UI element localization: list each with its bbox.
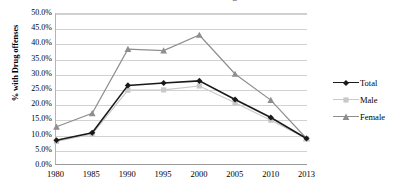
legend-marker-triangle bbox=[341, 112, 351, 122]
legend-marker-diamond bbox=[341, 78, 351, 88]
y-tick-label: 25.0% bbox=[0, 85, 52, 93]
x-tick-label: 2013 bbox=[285, 169, 329, 180]
series-layer bbox=[56, 14, 307, 164]
data-point-marker bbox=[343, 79, 349, 85]
y-tick-label: 20.0% bbox=[0, 100, 52, 108]
plot-area bbox=[55, 13, 307, 165]
legend-label: Male bbox=[359, 95, 377, 105]
y-axis-tick-labels: 0.0%5.0%10.0%15.0%20.0%25.0%30.0%35.0%40… bbox=[0, 13, 52, 165]
data-point-marker bbox=[343, 97, 348, 102]
y-tick-label: 45.0% bbox=[0, 24, 52, 32]
y-tick-label: 40.0% bbox=[0, 39, 52, 47]
data-point-marker bbox=[161, 87, 166, 92]
data-point-marker bbox=[53, 123, 60, 129]
legend-key-icon bbox=[333, 110, 359, 124]
series-line bbox=[56, 35, 306, 139]
legend-key-icon bbox=[333, 76, 359, 90]
chart-legend: TotalMaleFemale bbox=[333, 74, 411, 125]
y-tick-label: 10.0% bbox=[0, 131, 52, 139]
y-tick-label: 30.0% bbox=[0, 70, 52, 78]
legend-label: Total bbox=[359, 78, 377, 88]
data-point-marker bbox=[89, 110, 96, 116]
drug-offenses-line-chart: Percent of Sentenced Prisoners with Drug… bbox=[0, 0, 411, 194]
legend-item-total[interactable]: Total bbox=[333, 74, 411, 91]
y-tick-label: 15.0% bbox=[0, 115, 52, 123]
y-tick-label: 0.0% bbox=[0, 161, 52, 169]
x-axis-tick-labels: 19801985199019952000200520102013 bbox=[55, 169, 307, 185]
data-point-marker bbox=[197, 83, 202, 88]
chart-title-cutoff: Percent of Sentenced Prisoners with Drug… bbox=[60, 0, 360, 3]
y-tick-label: 50.0% bbox=[0, 9, 52, 17]
legend-label: Female bbox=[359, 112, 385, 122]
y-tick-label: 35.0% bbox=[0, 55, 52, 63]
data-point-marker bbox=[161, 80, 167, 86]
data-point-marker bbox=[196, 78, 202, 84]
data-point-marker bbox=[343, 113, 350, 119]
series-female bbox=[53, 32, 310, 142]
legend-key-icon bbox=[333, 93, 359, 107]
y-tick-label: 5.0% bbox=[0, 146, 52, 154]
legend-marker-square bbox=[341, 95, 351, 105]
data-point-marker bbox=[196, 32, 203, 38]
legend-item-male[interactable]: Male bbox=[333, 91, 411, 108]
legend-item-female[interactable]: Female bbox=[333, 108, 411, 125]
